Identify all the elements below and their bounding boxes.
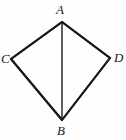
geometry-figure: A C D B (0, 0, 126, 140)
vertex-label-b: B (57, 124, 65, 137)
vertex-label-c: C (1, 52, 10, 65)
vertex-label-a: A (56, 3, 64, 16)
vertex-label-d: D (114, 51, 123, 64)
kite-diagram-svg (0, 0, 126, 140)
